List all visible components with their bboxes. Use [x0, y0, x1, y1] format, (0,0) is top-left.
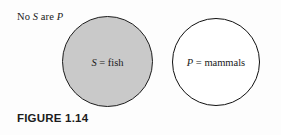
- subject-circle: S = fish: [62, 16, 153, 107]
- proposition-middle: are: [38, 11, 57, 22]
- predicate-circle-label: P = mammals: [173, 57, 259, 68]
- figure-caption: FIGURE 1.14: [17, 112, 88, 124]
- predicate-variable: P: [57, 11, 64, 22]
- proposition-statement: No S are P: [17, 11, 63, 22]
- proposition-prefix: No: [17, 11, 33, 22]
- subject-circle-label: S = fish: [63, 56, 152, 67]
- subject-circle-term: = fish: [97, 56, 124, 67]
- predicate-circle: P = mammals: [172, 18, 260, 106]
- predicate-circle-term: = mammals: [193, 57, 245, 68]
- figure-container: No S are P S = fish P = mammals FIGURE 1…: [0, 0, 281, 135]
